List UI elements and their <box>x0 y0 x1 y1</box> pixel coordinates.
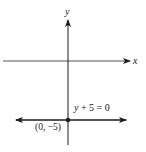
equation-rest: + 5 = 0 <box>78 102 109 113</box>
point-label: (0, −5) <box>35 123 61 133</box>
y-axis-label: y <box>65 7 69 17</box>
point-0-neg5 <box>66 118 70 122</box>
equation-label: y + 5 = 0 <box>74 103 110 113</box>
graph-canvas <box>0 0 146 152</box>
x-axis-label: x <box>133 56 137 66</box>
coordinate-graph: y x y + 5 = 0 (0, −5) <box>0 0 146 152</box>
